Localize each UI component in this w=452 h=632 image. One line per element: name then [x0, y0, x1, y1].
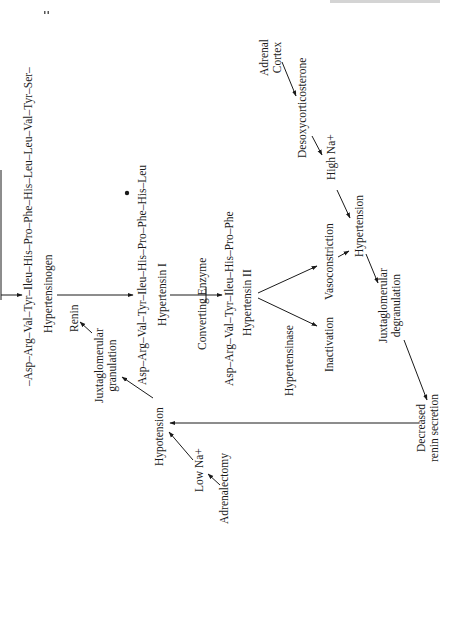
adrenal-to-doc-arrow	[282, 62, 296, 96]
adrenal-cortex-line-1: Adrenal	[258, 39, 271, 76]
juxtaglomerular-granulation-line-1: Juxtaglomerular	[93, 328, 106, 403]
granulation-to-renin-arrow	[80, 322, 92, 333]
hypertensinogen-chain: –Asp–Arg–Val–Tyr–Ileu–His–Pro–Phe–His–Le…	[22, 67, 35, 386]
hypertensin-ii-label: Hypertensin II	[241, 269, 254, 336]
lowna-to-hypotension-arrow	[169, 432, 193, 460]
highna-to-hypertension-arrow	[337, 190, 350, 218]
hypertensin-i-chain: Asp–Arg–Val–Tyr–Ileu–His–Pro–Phe–His–Leu	[136, 165, 149, 385]
vasoconstriction-label: Vasoconstriction	[323, 223, 336, 300]
inactivation-label: Inactivation	[323, 317, 336, 372]
decreased-renin-secretion-line-2: renin secretion	[428, 394, 441, 462]
decreased-renin-secretion-line-1: Decreased	[415, 394, 428, 462]
vasoconstriction-to-hypertension-arrow	[338, 251, 349, 257]
converting-enzyme-label: Converting Enzyme	[196, 258, 209, 350]
hypertensinogen-label: Hypertensinogen	[42, 254, 55, 333]
low-na-label: Low Na+	[193, 448, 206, 492]
hypertensinase-label: Hypertensinase	[283, 325, 296, 396]
hypotension-label: Hypotension	[153, 407, 166, 466]
degranulation-to-decreased-arrow	[404, 340, 427, 400]
marker-dot	[125, 191, 129, 195]
juxtaglomerular-granulation-line-2: granulation	[106, 328, 119, 403]
decreased-renin-secretion-label: Decreased renin secretion	[415, 394, 441, 462]
juxtaglomerular-granulation-label: Juxtaglomerular granulation	[93, 328, 119, 403]
adrenalectomy-label: Adrenalectomy	[218, 453, 231, 524]
adrenal-cortex-line-2: Cortex	[271, 39, 284, 76]
renin-label: Renin	[68, 305, 81, 332]
doc-to-highna-arrow	[312, 136, 322, 155]
desoxycorticosterone-label: Desoxycorticosterone	[296, 58, 309, 158]
hypertensin-ii-chain: Asp–Arg–Val–Tyr–Ileu–His–Pro–Phe	[223, 211, 236, 386]
juxtaglomerular-degranulation-line-1: Juxtaglomerular	[377, 268, 390, 343]
adrenal-cortex-label: Adrenal Cortex	[258, 39, 284, 76]
juxtaglomerular-degranulation-label: Juxtaglomerular degranulation	[377, 268, 403, 343]
to-inactivation-arrow	[258, 298, 317, 326]
hypertensin-i-label: Hypertensin I	[156, 263, 169, 326]
to-vasoconstriction-arrow	[258, 266, 317, 293]
hypertension-label: Hypertension	[353, 195, 366, 257]
juxtaglomerular-degranulation-line-2: degranulation	[390, 268, 403, 343]
high-na-label: High Na+	[325, 134, 338, 180]
